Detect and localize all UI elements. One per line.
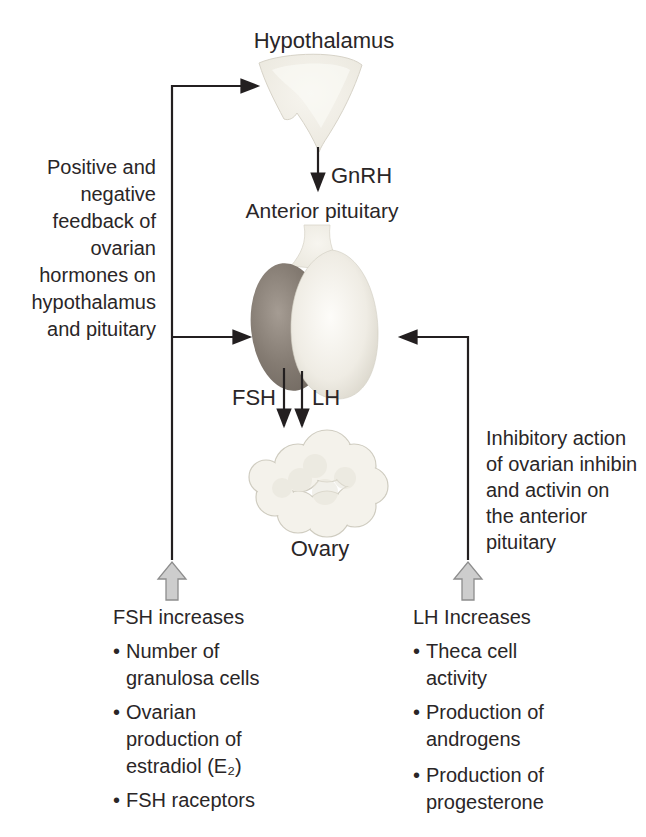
list-item-line: androgens (426, 726, 544, 753)
note-line: hormones on (18, 262, 156, 289)
note-line: feedback of (18, 208, 156, 235)
hpo-axis-diagram: Hypothalamus GnRH Anterior pituitary FSH… (0, 0, 646, 837)
note-line: ovarian (18, 235, 156, 262)
bullet-icon: • (413, 638, 426, 692)
list-item: • Number of granulosa cells (113, 638, 313, 692)
list-item: • FSH raceptors (113, 787, 313, 814)
fsh-list-heading: FSH increases (113, 604, 313, 631)
list-item-line: activity (426, 665, 517, 692)
note-line: negative (18, 181, 156, 208)
fsh-label: FSH (230, 385, 276, 411)
fsh-increases-list: FSH increases • Number of granulosa cell… (113, 604, 313, 814)
lh-feedback-up-arrow (454, 562, 482, 600)
left-feedback-note: Positive and negative feedback of ovaria… (18, 154, 156, 343)
note-line: the anterior (486, 503, 637, 529)
list-item-line: production of (126, 726, 242, 753)
list-item-line: progesterone (426, 789, 544, 816)
list-item-line: Number of (126, 638, 259, 665)
ovary-illustration (249, 430, 388, 537)
lh-list-heading: LH Increases (413, 604, 613, 631)
fsh-feedback-up-arrow (158, 562, 186, 600)
note-line: and activin on (486, 477, 637, 503)
list-item: • Production of progesterone (413, 762, 613, 816)
note-line: Positive and (18, 154, 156, 181)
list-item-line: Ovarian (126, 699, 242, 726)
list-item: • Ovarian production of estradiol (E₂) (113, 699, 313, 780)
list-item-line: granulosa cells (126, 665, 259, 692)
list-item-line: FSH raceptors (126, 787, 255, 814)
list-item: • Theca cell activity (413, 638, 613, 692)
note-line: hypothalamus (18, 289, 156, 316)
list-item-line: Production of (426, 762, 544, 789)
lh-label: LH (312, 385, 340, 411)
list-item-line: estradiol (E₂) (126, 753, 242, 780)
bullet-icon: • (113, 787, 126, 814)
note-line: Inhibitory action (486, 425, 637, 451)
gnrh-label: GnRH (331, 163, 392, 189)
right-inhibition-line-to-pituitary (400, 337, 468, 560)
note-line: of ovarian inhibin (486, 451, 637, 477)
list-item: • Production of androgens (413, 699, 613, 753)
note-line: pituitary (486, 529, 637, 555)
list-item-line: Production of (426, 699, 544, 726)
left-feedback-line-to-hypothalamus (172, 86, 258, 560)
list-item-line: Theca cell (426, 638, 517, 665)
bullet-icon: • (413, 699, 426, 753)
note-line: and pituitary (18, 316, 156, 343)
bullet-icon: • (113, 699, 126, 780)
lh-increases-list: LH Increases • Theca cell activity • Pro… (413, 604, 613, 816)
ovary-label: Ovary (270, 536, 370, 562)
hypothalamus-label: Hypothalamus (234, 28, 414, 54)
bullet-icon: • (113, 638, 126, 692)
right-inhibition-note: Inhibitory action of ovarian inhibin and… (486, 425, 637, 555)
bullet-icon: • (413, 762, 426, 816)
anterior-pituitary-label: Anterior pituitary (222, 199, 422, 223)
